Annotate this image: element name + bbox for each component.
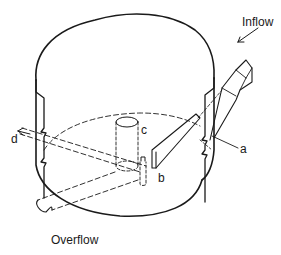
inflow-arrow	[238, 28, 258, 42]
central-column-base	[116, 161, 138, 171]
label-overflow: Overflow	[51, 234, 98, 246]
label-c: c	[141, 124, 147, 136]
central-column-top	[116, 117, 138, 127]
tank-top-rim	[36, 14, 214, 80]
label-inflow: Inflow	[242, 16, 273, 28]
inflow-channel	[210, 60, 252, 140]
overflow-pipe-end	[37, 200, 52, 212]
label-d: d	[11, 133, 18, 145]
tank-right-wall	[202, 78, 214, 202]
label-a: a	[240, 143, 247, 155]
label-b: b	[158, 172, 165, 184]
